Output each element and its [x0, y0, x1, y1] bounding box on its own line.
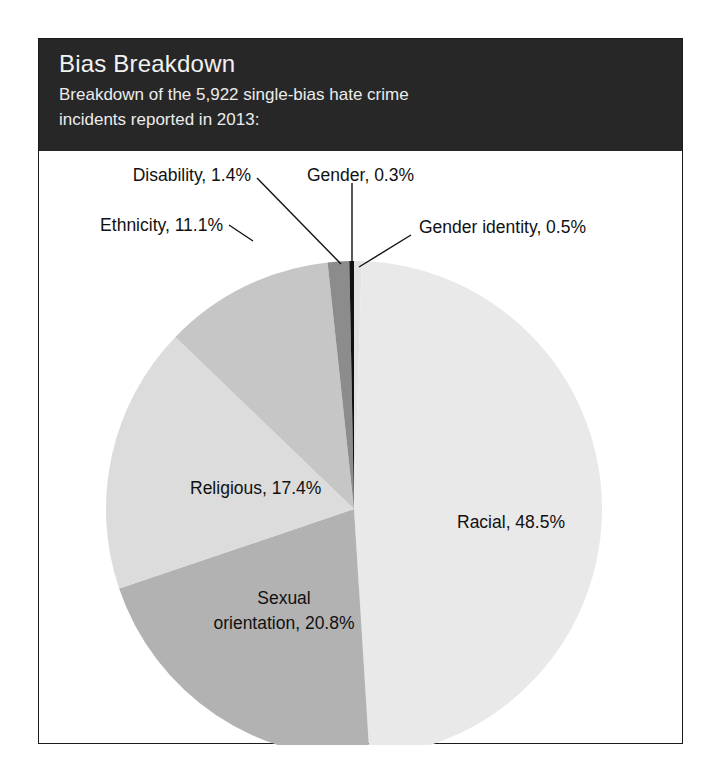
pie-label-sexual-orientation-line1: Sexual: [257, 588, 311, 608]
pie-label-disability: Disability, 1.4%: [133, 165, 251, 185]
pie-label-racial: Racial, 48.5%: [457, 512, 565, 532]
card-subtitle-line2: incidents reported in 2013:: [59, 107, 559, 132]
leader-line-ethnicity: [229, 225, 253, 241]
pie-slices: [106, 261, 602, 745]
screenshot-root: Bias Breakdown Breakdown of the 5,922 si…: [0, 0, 723, 779]
leader-line-gender-identity: [359, 235, 411, 267]
card-subtitle: Breakdown of the 5,922 single-bias hate …: [59, 82, 559, 132]
leader-line-disability: [257, 178, 341, 264]
card-subtitle-line1: Breakdown of the 5,922 single-bias hate …: [59, 85, 409, 104]
pie-label-religious: Religious, 17.4%: [190, 478, 321, 498]
pie-leader-lines: [229, 178, 411, 267]
pie-slice-racial[interactable]: [354, 261, 602, 745]
card-header: Bias Breakdown Breakdown of the 5,922 si…: [39, 39, 682, 151]
page-title: Bias Breakdown: [59, 49, 682, 79]
pie-label-ethnicity: Ethnicity, 11.1%: [100, 215, 223, 235]
pie-outside-labels: Disability, 1.4% Gender, 0.3% Gender ide…: [100, 165, 586, 237]
pie-label-sexual-orientation-line2: orientation, 20.8%: [213, 613, 354, 633]
bias-breakdown-card: Bias Breakdown Breakdown of the 5,922 si…: [38, 38, 683, 744]
pie-label-gender-identity: Gender identity, 0.5%: [419, 217, 586, 237]
pie-chart: Disability, 1.4% Gender, 0.3% Gender ide…: [39, 151, 682, 745]
pie-label-gender: Gender, 0.3%: [307, 165, 414, 185]
pie-chart-area: Disability, 1.4% Gender, 0.3% Gender ide…: [39, 151, 682, 745]
